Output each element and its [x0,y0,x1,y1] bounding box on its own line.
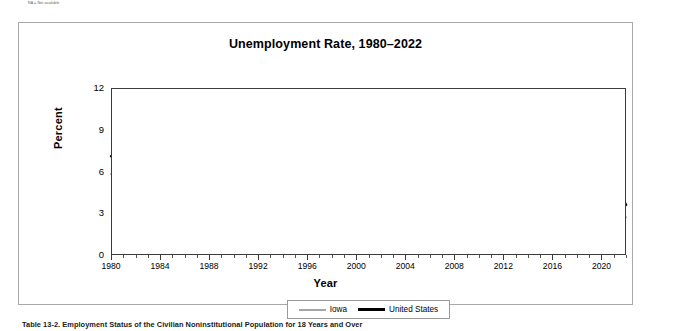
x-axis-title: Year [19,277,632,289]
x-tick-2022 [626,255,627,258]
x-tick-1987 [197,255,198,258]
y-tick-label-6: 6 [78,166,104,177]
x-tick-label-1984: 1984 [140,261,180,271]
y-tick-label-9: 9 [78,124,104,135]
x-tick-2017 [565,255,566,258]
x-tick-1989 [221,255,222,258]
figure-container: Unemployment Rate, 1980–2022 Percent 036… [18,22,633,305]
y-axis-title: Percent [52,107,64,149]
chart-title: Unemployment Rate, 1980–2022 [19,37,632,51]
legend-item-iowa: Iowa [299,305,347,314]
x-tick-label-1988: 1988 [189,261,229,271]
legend-label-united-states: United States [389,305,438,314]
table-caption: Table 13-2. Employment Status of the Civ… [22,320,362,329]
x-tick-1992 [258,255,259,260]
x-tick-2013 [516,255,517,258]
x-tick-label-2004: 2004 [385,261,425,271]
x-tick-1994 [283,255,284,258]
plot-frame [111,88,626,255]
x-tick-2016 [552,255,553,260]
x-tick-1990 [234,255,235,258]
x-tick-label-2016: 2016 [532,261,572,271]
x-tick-1984 [160,255,161,260]
x-tick-2011 [491,255,492,258]
y-tick-label-0: 0 [78,249,104,260]
x-tick-2005 [418,255,419,258]
x-tick-1999 [344,255,345,258]
x-tick-2010 [479,255,480,258]
x-tick-1993 [270,255,271,258]
x-tick-2007 [442,255,443,258]
x-tick-label-2020: 2020 [581,261,621,271]
x-tick-2003 [393,255,394,258]
legend-item-united-states: United States [358,305,438,314]
na-note: NA = Not available [28,1,59,5]
x-tick-1988 [209,255,210,260]
x-tick-label-2008: 2008 [434,261,474,271]
x-tick-label-2000: 2000 [336,261,376,271]
x-tick-1982 [136,255,137,258]
x-tick-1980 [111,255,112,260]
x-tick-1986 [185,255,186,258]
x-tick-2018 [577,255,578,258]
x-tick-2014 [528,255,529,258]
x-tick-2002 [381,255,382,258]
x-tick-label-1980: 1980 [91,261,131,271]
legend-swatch-iowa [299,309,326,311]
y-tick-label-12: 12 [78,82,104,93]
x-tick-1995 [295,255,296,258]
x-tick-2008 [454,255,455,260]
x-tick-2020 [601,255,602,260]
x-tick-1985 [172,255,173,258]
y-tick-label-3: 3 [78,207,104,218]
x-tick-label-1992: 1992 [238,261,278,271]
x-tick-1991 [246,255,247,258]
legend-swatch-united-states [358,308,385,311]
x-tick-2012 [503,255,504,260]
x-tick-2006 [430,255,431,258]
x-tick-2000 [356,255,357,260]
x-tick-2021 [614,255,615,258]
x-tick-1983 [148,255,149,258]
x-tick-1998 [332,255,333,258]
x-tick-1997 [319,255,320,258]
chart-legend: Iowa United States [287,300,450,319]
legend-label-iowa: Iowa [330,305,347,314]
x-tick-2015 [540,255,541,258]
x-tick-1981 [123,255,124,258]
x-tick-2001 [369,255,370,258]
plot-area [111,88,626,255]
x-tick-label-2012: 2012 [483,261,523,271]
x-tick-2004 [405,255,406,260]
x-tick-2019 [589,255,590,258]
x-tick-1996 [307,255,308,260]
x-tick-label-1996: 1996 [287,261,327,271]
x-tick-2009 [467,255,468,258]
